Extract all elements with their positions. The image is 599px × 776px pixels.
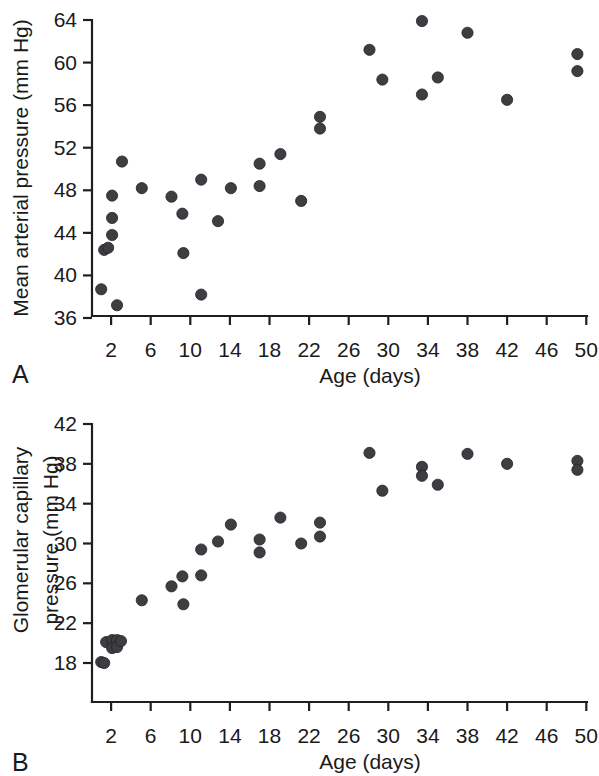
y-tick-label: 48 — [54, 178, 77, 201]
scatter-plot-b: 18222630343842261014182226303438424650Ag… — [0, 390, 599, 776]
x-tick-label: 42 — [495, 338, 518, 361]
data-point — [462, 27, 473, 38]
x-tick-label: 26 — [337, 724, 360, 747]
x-tick-label: 46 — [535, 724, 558, 747]
y-tick-label: 64 — [54, 8, 78, 31]
data-point — [116, 156, 127, 167]
data-point — [166, 581, 177, 592]
data-point — [416, 470, 427, 481]
data-point — [377, 485, 388, 496]
data-point — [296, 195, 307, 206]
data-point — [572, 464, 583, 475]
panel-b: 18222630343842261014182226303438424650Ag… — [0, 390, 599, 776]
x-tick-label: 2 — [105, 338, 117, 361]
panel-letter: A — [12, 360, 29, 388]
x-tick-label: 26 — [337, 338, 360, 361]
panel-letter: B — [12, 748, 29, 776]
x-tick-label: 14 — [218, 338, 242, 361]
data-point — [314, 123, 325, 134]
data-point — [432, 479, 443, 490]
x-tick-label: 6 — [145, 338, 157, 361]
x-tick-label: 30 — [377, 724, 400, 747]
data-point — [225, 183, 236, 194]
x-tick-label: 14 — [218, 724, 242, 747]
data-point — [314, 531, 325, 542]
data-point — [196, 544, 207, 555]
data-point — [416, 89, 427, 100]
x-tick-label: 38 — [456, 338, 479, 361]
data-point — [275, 149, 286, 160]
data-point — [96, 284, 107, 295]
x-axis-title: Age (days) — [319, 364, 421, 387]
y-axis-title: pressure (mm Hg) — [39, 455, 62, 624]
data-point — [106, 190, 117, 201]
data-point — [432, 72, 443, 83]
x-tick-label: 50 — [575, 724, 598, 747]
data-point — [178, 247, 189, 258]
data-point — [115, 635, 126, 646]
data-point — [364, 447, 375, 458]
x-tick-label: 46 — [535, 338, 558, 361]
data-point — [103, 242, 114, 253]
x-tick-label: 18 — [258, 724, 281, 747]
data-point-group — [96, 15, 583, 310]
data-point — [111, 300, 122, 311]
panel-a: 3640444852566064261014182226303438424650… — [0, 0, 599, 390]
data-point — [254, 534, 265, 545]
x-tick-label: 22 — [297, 338, 320, 361]
y-tick-label: 60 — [54, 51, 77, 74]
data-point — [572, 65, 583, 76]
data-point — [462, 448, 473, 459]
x-tick-label: 18 — [258, 338, 281, 361]
y-tick-label: 42 — [54, 412, 77, 435]
x-axis-title: Age (days) — [319, 750, 421, 773]
data-point — [254, 547, 265, 558]
x-tick-label: 2 — [105, 724, 117, 747]
y-tick-label: 40 — [54, 263, 77, 286]
data-point — [196, 570, 207, 581]
data-point — [296, 538, 307, 549]
x-tick-label: 30 — [377, 338, 400, 361]
y-tick-label: 56 — [54, 93, 77, 116]
data-point — [166, 191, 177, 202]
x-tick-label: 10 — [179, 338, 202, 361]
data-point — [572, 48, 583, 59]
y-tick-label: 18 — [54, 651, 77, 674]
data-point — [364, 44, 375, 55]
data-point — [212, 216, 223, 227]
data-point — [314, 517, 325, 528]
x-tick-label: 6 — [145, 724, 157, 747]
data-point — [377, 74, 388, 85]
data-point — [106, 212, 117, 223]
data-point — [314, 111, 325, 122]
data-point — [178, 599, 189, 610]
x-tick-label: 22 — [297, 724, 320, 747]
x-tick-label: 42 — [495, 724, 518, 747]
data-point — [416, 15, 427, 26]
y-tick-label: 44 — [54, 221, 78, 244]
x-tick-label: 34 — [416, 338, 440, 361]
y-tick-label: 52 — [54, 136, 77, 159]
scatter-plot-a: 3640444852566064261014182226303438424650… — [0, 0, 599, 390]
data-point — [225, 519, 236, 530]
data-point — [212, 536, 223, 547]
data-point — [177, 208, 188, 219]
data-point — [502, 458, 513, 469]
data-point — [196, 174, 207, 185]
data-point — [254, 180, 265, 191]
data-point — [254, 158, 265, 169]
data-point — [275, 512, 286, 523]
figure-container: 3640444852566064261014182226303438424650… — [0, 0, 599, 776]
y-axis-title: Glomerular capillary — [9, 446, 32, 633]
y-tick-label: 36 — [54, 306, 77, 329]
data-point — [196, 289, 207, 300]
data-point — [106, 229, 117, 240]
data-point — [136, 595, 147, 606]
data-point — [136, 183, 147, 194]
data-point — [99, 657, 110, 668]
x-tick-label: 38 — [456, 724, 479, 747]
x-tick-label: 34 — [416, 724, 440, 747]
x-tick-label: 10 — [179, 724, 202, 747]
data-point-group — [96, 447, 583, 668]
y-axis-title: Mean arterial pressure (mm Hg) — [9, 19, 32, 317]
